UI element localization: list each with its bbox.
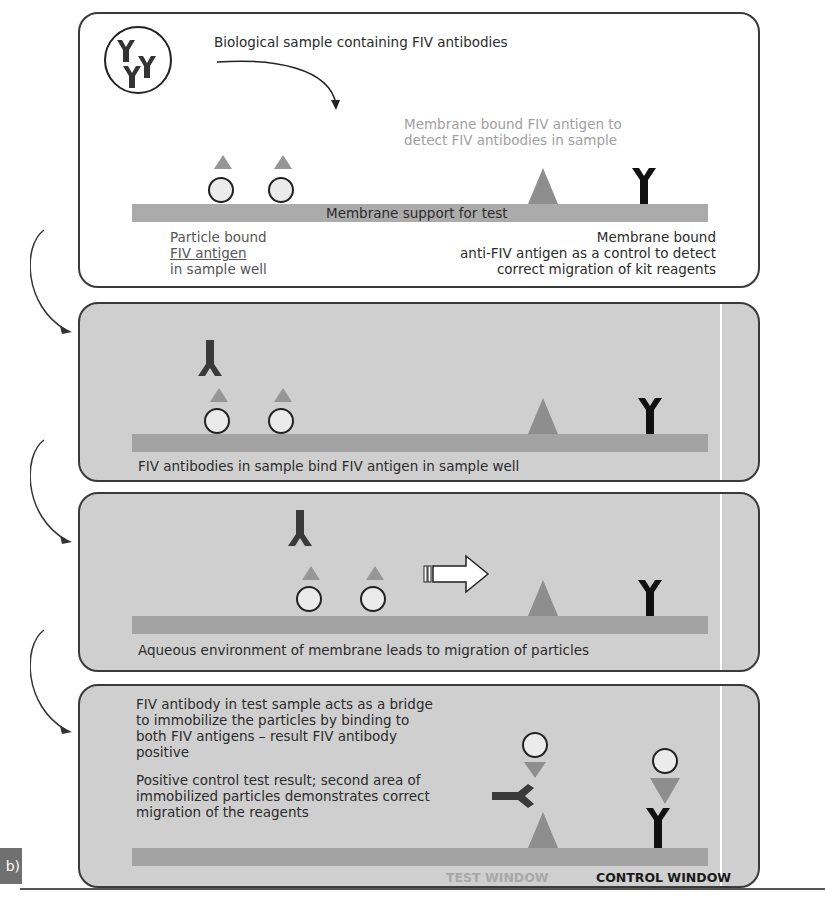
panel2-caption: FIV antibodies in sample bind FIV antige… [138, 458, 519, 474]
membrane-label: Membrane support for test [326, 205, 508, 221]
particle [204, 408, 230, 434]
particle [522, 732, 548, 758]
control-label: Membrane bound anti-FIV antigen as a con… [460, 229, 716, 277]
panel-antibody-binding: FIV antibodies in sample bind FIV antige… [78, 302, 760, 482]
membrane-strip [132, 434, 708, 452]
control-text-line3: migration of the reagents [136, 804, 430, 820]
figure-step-label: b) [0, 848, 22, 884]
window-divider [720, 686, 722, 886]
particle [296, 586, 322, 612]
particle-label-line1: Particle bound [170, 229, 267, 245]
antigen-triangle-inverted [524, 762, 546, 778]
membrane-antigen-triangle [528, 168, 558, 204]
particle [360, 586, 386, 612]
antigen-triangle [210, 388, 228, 402]
result-explanation: FIV antibody in test sample acts as a br… [136, 696, 433, 760]
step-arrow-icon [30, 626, 80, 736]
sample-label: Biological sample containing FIV antibod… [214, 34, 508, 50]
antigen-triangle [302, 566, 320, 580]
particle-label-line3: in sample well [170, 261, 267, 277]
result-text-line4: positive [136, 744, 433, 760]
panel-migration: Aqueous environment of membrane leads to… [78, 492, 760, 672]
antigen-triangle [274, 155, 292, 169]
membrane-antigen-triangle [528, 812, 558, 848]
antigen-triangle [366, 566, 384, 580]
result-text-line2: to immobilize the particles by binding t… [136, 712, 433, 728]
membrane-antigen-triangle [528, 580, 558, 616]
curved-arrow-icon [214, 54, 344, 114]
control-antibody-icon [644, 806, 672, 850]
control-label-line3: correct migration of kit reagents [460, 261, 716, 277]
membrane-antigen-triangle [528, 398, 558, 434]
control-text-line2: immobilized particles demonstrates corre… [136, 788, 430, 804]
panel-test-setup: Biological sample containing FIV antibod… [78, 12, 760, 288]
membrane-antigen-label-line2: detect FIV antibodies in sample [404, 132, 622, 148]
particle-label-line2: FIV antigen [170, 245, 267, 261]
antigen-triangle-inverted [650, 778, 680, 804]
step-arrow-icon [30, 436, 80, 546]
result-text-line1: FIV antibody in test sample acts as a br… [136, 696, 433, 712]
antigen-triangle [214, 155, 232, 169]
membrane-antigen-label-line1: Membrane bound FIV antigen to [404, 116, 622, 132]
bridging-antibody-icon [490, 782, 536, 810]
membrane-strip [132, 616, 708, 634]
particle [268, 408, 294, 434]
control-explanation: Positive control test result; second are… [136, 772, 430, 820]
particle-label: Particle bound FIV antigen in sample wel… [170, 229, 267, 277]
antibodies-in-circle-icon [102, 24, 174, 96]
control-label-line1: Membrane bound [460, 229, 716, 245]
panel-result: FIV antibody in test sample acts as a br… [78, 684, 760, 888]
bottom-divider [20, 888, 825, 890]
control-antibody-icon [630, 166, 658, 206]
control-label-line2: anti-FIV antigen as a control to detect [460, 245, 716, 261]
sample-antibody-icon [196, 338, 224, 380]
step-arrow-icon [30, 226, 80, 336]
control-text-line1: Positive control test result; second are… [136, 772, 430, 788]
window-divider [720, 494, 722, 670]
control-antibody-icon [636, 396, 664, 436]
antigen-triangle [274, 388, 292, 402]
migration-arrow-icon [422, 554, 492, 596]
sample-antibody-icon [286, 508, 314, 550]
control-antibody-icon [636, 578, 664, 618]
control-window-label: CONTROL WINDOW [596, 870, 731, 886]
window-divider [720, 304, 722, 480]
particle [268, 177, 294, 203]
particle [652, 748, 678, 774]
test-window-label: TEST WINDOW [446, 870, 549, 886]
window-divider [720, 204, 722, 222]
particle [208, 177, 234, 203]
result-text-line3: both FIV antigens – result FIV antibody [136, 728, 433, 744]
membrane-strip [132, 848, 708, 866]
panel3-caption: Aqueous environment of membrane leads to… [138, 642, 589, 658]
membrane-antigen-label: Membrane bound FIV antigen to detect FIV… [404, 116, 622, 148]
